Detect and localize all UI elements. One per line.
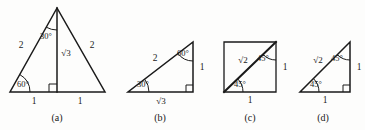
figure-2-side-label-2: 1 — [200, 63, 205, 73]
figure-1-angle-arc-1 — [46, 27, 57, 30]
figure-2-angle-label-1: 30° — [137, 80, 149, 89]
figure-1-angle-label-2: 60° — [17, 80, 29, 89]
figure-3-caption: (c) — [244, 113, 255, 123]
figure-vector-canvas — [0, 0, 365, 130]
figure-1-side-label-1: 2 — [19, 41, 24, 51]
figure-4-side-label-1: √2 — [313, 56, 322, 65]
figure-3-angle-label-2: 45° — [257, 54, 269, 63]
figure-2-side-label-3: √3 — [156, 97, 165, 106]
figure-1-right-angle-marker — [49, 84, 57, 92]
figure-2-angle-label-2: 60° — [177, 49, 189, 58]
figure-3-angle-label-1: 45° — [234, 80, 246, 89]
figure-2-right-angle-marker — [186, 85, 193, 92]
figure-1-side-label-3: √3 — [61, 49, 70, 58]
figure-1-side-label-4: 1 — [32, 97, 37, 107]
figure-1-angle-label-1: 30° — [40, 32, 52, 41]
figure-1-caption: (a) — [51, 113, 62, 123]
figure-1-side-label-2: 2 — [90, 41, 95, 51]
figure-3-side-label-3: 1 — [248, 96, 253, 106]
figure-4-side-label-2: 1 — [357, 63, 362, 73]
figure-3-side-label-2: 1 — [283, 63, 288, 73]
figure-4-caption: (d) — [317, 113, 329, 123]
figure-2-side-label-1: 2 — [153, 54, 158, 64]
figure-1-side-label-5: 1 — [78, 97, 83, 107]
figure-3-diagonal-line — [224, 42, 276, 92]
figure-4-side-label-3: 1 — [323, 96, 328, 106]
figure-2-caption: (b) — [154, 113, 166, 123]
figure-4-angle-label-1: 45° — [310, 80, 322, 89]
figure-3-side-label-1: √2 — [238, 56, 247, 65]
figure-4-angle-label-2: 45° — [331, 54, 343, 63]
geometry-figure-plate: 30°60°22√311(a)30°60°21√3(b)45°45°√211(c… — [0, 0, 365, 130]
figure-4-right-angle-marker — [343, 85, 350, 92]
